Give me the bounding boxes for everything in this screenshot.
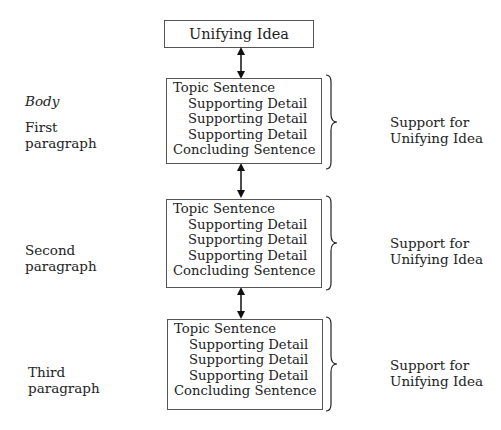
support-label-line: Support for bbox=[390, 235, 483, 251]
right-brace-icon bbox=[325, 195, 339, 291]
concluding-sentence: Concluding Sentence bbox=[173, 142, 321, 158]
paragraph-name-third: Third paragraph bbox=[28, 364, 100, 396]
supporting-detail: Supporting Detail bbox=[173, 232, 321, 248]
paragraph-name-line: paragraph bbox=[25, 135, 97, 151]
topic-sentence: Topic Sentence bbox=[173, 80, 321, 96]
double-arrow-icon bbox=[235, 287, 247, 319]
paragraph-name-line: paragraph bbox=[28, 380, 100, 396]
double-arrow-icon bbox=[235, 47, 247, 79]
supporting-detail: Supporting Detail bbox=[174, 337, 322, 353]
paragraph-name-line: First bbox=[25, 119, 97, 135]
support-label-line: Support for bbox=[390, 357, 483, 373]
supporting-detail: Supporting Detail bbox=[174, 368, 322, 384]
supporting-detail: Supporting Detail bbox=[173, 127, 321, 143]
paragraph-name-second: Second paragraph bbox=[25, 242, 97, 274]
paragraph-name-first: First paragraph bbox=[25, 119, 97, 151]
support-label-line: Unifying Idea bbox=[390, 130, 483, 146]
unifying-idea-label: Unifying Idea bbox=[189, 26, 289, 42]
supporting-detail: Supporting Detail bbox=[173, 248, 321, 264]
paragraph-name-line: Third bbox=[28, 364, 100, 380]
support-label-second: Support for Unifying Idea bbox=[390, 235, 483, 267]
concluding-sentence: Concluding Sentence bbox=[173, 263, 321, 279]
support-label-line: Unifying Idea bbox=[390, 373, 483, 389]
paragraph-name-line: paragraph bbox=[25, 258, 97, 274]
paragraph-name-line: Second bbox=[25, 242, 97, 258]
right-brace-icon bbox=[325, 316, 339, 412]
supporting-detail: Supporting Detail bbox=[173, 111, 321, 127]
supporting-detail: Supporting Detail bbox=[173, 96, 321, 112]
unifying-idea-box: Unifying Idea bbox=[164, 20, 314, 48]
right-brace-icon bbox=[325, 74, 339, 170]
topic-sentence: Topic Sentence bbox=[174, 321, 322, 337]
support-label-line: Support for bbox=[390, 114, 483, 130]
supporting-detail: Supporting Detail bbox=[174, 352, 322, 368]
double-arrow-icon bbox=[235, 163, 247, 198]
paragraph-box-third: Topic Sentence Supporting Detail Support… bbox=[167, 319, 323, 410]
support-label-third: Support for Unifying Idea bbox=[390, 357, 483, 389]
supporting-detail: Supporting Detail bbox=[173, 217, 321, 233]
paragraph-box-first: Topic Sentence Supporting Detail Support… bbox=[166, 78, 322, 164]
topic-sentence: Topic Sentence bbox=[173, 201, 321, 217]
body-label: Body bbox=[25, 93, 59, 109]
support-label-line: Unifying Idea bbox=[390, 251, 483, 267]
concluding-sentence: Concluding Sentence bbox=[174, 383, 322, 399]
support-label-first: Support for Unifying Idea bbox=[390, 114, 483, 146]
paragraph-box-second: Topic Sentence Supporting Detail Support… bbox=[166, 199, 322, 288]
